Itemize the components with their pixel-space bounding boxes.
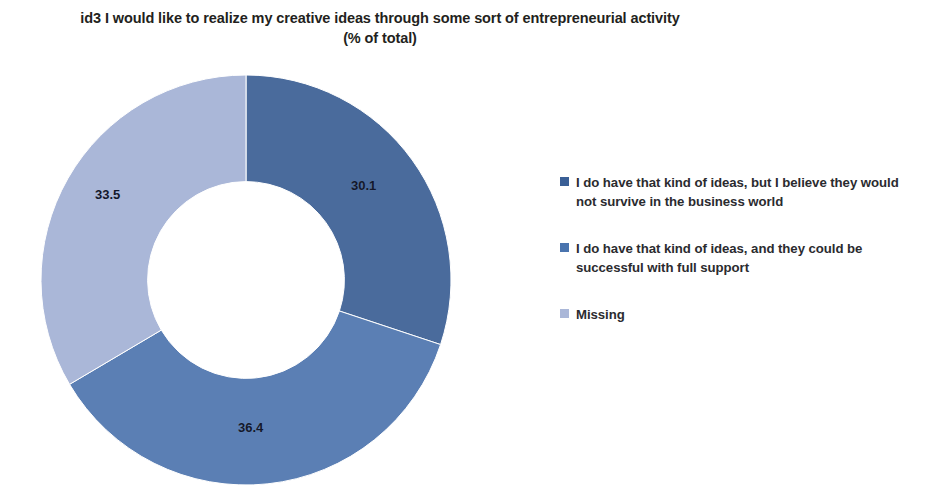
legend-item-0[interactable]: I do have that kind of ideas, but I beli… [560,173,912,211]
legend-item-1[interactable]: I do have that kind of ideas, and they c… [560,239,912,277]
chart-legend: I do have that kind of ideas, but I beli… [560,173,912,324]
legend-swatch-icon-0 [560,177,569,186]
slice-data-label-1: 36.4 [238,420,263,435]
legend-swatch-icon-2 [560,309,569,318]
legend-swatch-icon-1 [560,243,569,252]
donut-chart-figure: id3 I would like to realize my creative … [0,0,935,502]
donut-slice-2[interactable] [41,75,246,384]
legend-label-2: Missing [576,305,625,324]
legend-item-2[interactable]: Missing [560,305,912,324]
chart-title: id3 I would like to realize my creative … [60,8,700,48]
slice-data-label-0: 30.1 [351,178,376,193]
donut-plot-area: 30.1 36.4 33.5 [38,72,454,488]
donut-slice-0[interactable] [246,75,451,345]
slice-data-label-2: 33.5 [95,187,120,202]
legend-label-1: I do have that kind of ideas, and they c… [576,239,912,277]
chart-title-line-1: id3 I would like to realize my creative … [80,10,679,26]
legend-label-0: I do have that kind of ideas, but I beli… [576,173,912,211]
chart-title-line-2: (% of total) [60,28,700,48]
